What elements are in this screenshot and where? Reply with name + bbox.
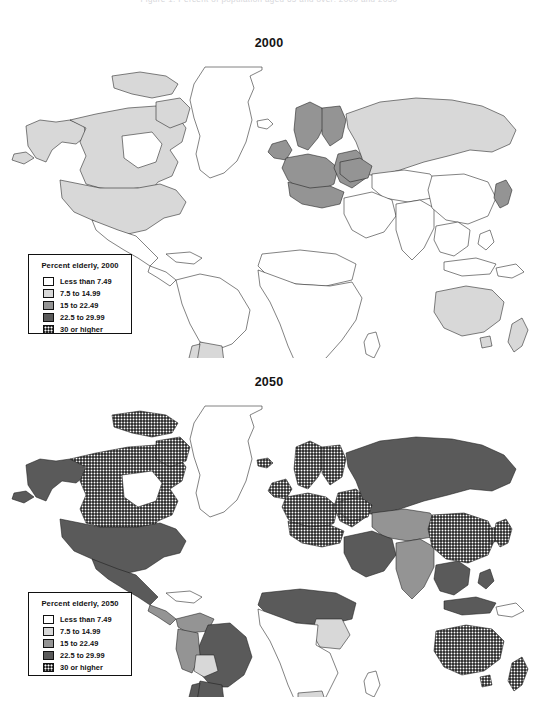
legend-swatch-class-4: [43, 325, 54, 334]
region-china: [428, 174, 496, 224]
legend-item: 15 to 22.49: [36, 638, 124, 649]
region-canadian-arctic-islands: [112, 411, 178, 437]
region-madagascar: [364, 332, 380, 358]
region-canadian-arctic-islands: [112, 72, 178, 98]
legend-title-2050: Percent elderly, 2050: [36, 599, 124, 608]
legend-item: 30 or higher: [36, 324, 124, 335]
region-indonesia: [444, 258, 496, 276]
legend-2050: Percent elderly, 2050 Less than 7.49 7.5…: [28, 592, 132, 676]
region-philippines: [478, 569, 494, 589]
region-new-zealand: [508, 318, 528, 352]
legend-item: 22.5 to 29.99: [36, 650, 124, 661]
region-tasmania: [480, 675, 492, 687]
legend-swatch-class-1: [43, 289, 54, 298]
cropped-figure-header: Figure 1. Percent of population aged 65 …: [0, 0, 538, 9]
region-caribbean: [166, 591, 202, 603]
legend-swatch-class-2: [43, 639, 54, 648]
region-png: [496, 603, 524, 617]
region-russia: [346, 437, 516, 515]
legend-2000: Percent elderly, 2000 Less than 7.49 7.5…: [28, 254, 132, 334]
region-middle-east: [344, 531, 396, 577]
region-iceland: [257, 458, 273, 468]
legend-label-class-3: 22.5 to 29.99: [60, 651, 105, 660]
region-united-states: [60, 180, 186, 234]
legend-swatch-class-1: [43, 627, 54, 636]
legend-item: Less than 7.49: [36, 614, 124, 625]
region-india: [396, 200, 434, 260]
legend-label-class-4: 30 or higher: [60, 325, 103, 334]
region-madagascar: [364, 671, 380, 697]
region-caribbean: [166, 252, 202, 264]
region-japan: [494, 180, 512, 208]
region-finland-baltic: [322, 106, 346, 146]
legend-swatch-class-2: [43, 301, 54, 310]
legend-label-class-1: 7.5 to 14.99: [60, 627, 100, 636]
region-india: [396, 539, 434, 599]
region-greenland: [190, 67, 262, 178]
region-southeast-asia: [434, 222, 470, 256]
legend-swatch-class-3: [43, 313, 54, 322]
cropped-figure-header-text: Figure 1. Percent of population aged 65 …: [141, 0, 398, 4]
legend-label-class-2: 15 to 22.49: [60, 639, 98, 648]
legend-item: 15 to 22.49: [36, 300, 124, 311]
legend-title-2000: Percent elderly, 2000: [36, 261, 124, 270]
legend-label-class-2: 15 to 22.49: [60, 301, 98, 310]
legend-label-class-4: 30 or higher: [60, 663, 103, 672]
legend-item: 30 or higher: [36, 662, 124, 673]
legend-swatch-class-0: [43, 615, 54, 624]
region-scandinavia: [294, 102, 326, 150]
figure-percent-elderly-maps: Figure 1. Percent of population aged 65 …: [0, 0, 538, 718]
region-united-states: [60, 519, 186, 573]
panel-title-2000: 2000: [0, 36, 538, 50]
region-brazil-north-sa: [176, 274, 250, 350]
region-finland-baltic: [322, 445, 346, 485]
region-scandinavia: [294, 441, 326, 489]
legend-swatch-class-4: [43, 663, 54, 672]
region-australia: [434, 625, 504, 675]
region-alaska-islands: [12, 152, 34, 164]
region-middle-east: [344, 192, 396, 238]
legend-item: Less than 7.49: [36, 276, 124, 287]
legend-label-class-0: Less than 7.49: [60, 615, 112, 624]
legend-label-class-3: 22.5 to 29.99: [60, 313, 105, 322]
region-alaska-islands: [12, 491, 34, 503]
region-indonesia: [444, 597, 496, 615]
region-southeast-asia: [434, 561, 470, 595]
region-australia: [434, 286, 504, 336]
legend-item: 7.5 to 14.99: [36, 626, 124, 637]
region-japan: [494, 519, 512, 547]
region-central-america: [148, 605, 176, 625]
legend-label-class-1: 7.5 to 14.99: [60, 289, 100, 298]
legend-item: 7.5 to 14.99: [36, 288, 124, 299]
legend-swatch-class-3: [43, 651, 54, 660]
region-china: [428, 513, 496, 563]
region-sudan: [312, 619, 350, 649]
region-russia: [346, 98, 516, 176]
region-png: [496, 264, 524, 278]
panel-title-2050: 2050: [0, 375, 538, 389]
region-british-isles: [268, 140, 292, 160]
legend-label-class-0: Less than 7.49: [60, 277, 112, 286]
region-central-america: [148, 266, 176, 286]
region-greenland: [190, 406, 262, 517]
region-chile: [184, 344, 200, 358]
legend-item: 22.5 to 29.99: [36, 312, 124, 323]
region-alaska: [26, 459, 86, 501]
region-iceland: [257, 119, 273, 129]
region-tasmania: [480, 336, 492, 348]
region-chile: [184, 683, 200, 697]
region-alaska: [26, 120, 86, 162]
region-new-zealand: [508, 657, 528, 691]
legend-swatch-class-0: [43, 277, 54, 286]
region-philippines: [478, 230, 494, 250]
region-british-isles: [268, 479, 292, 499]
